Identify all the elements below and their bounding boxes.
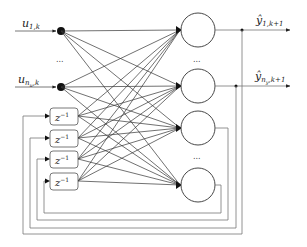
rnn-diagram: u1,k unu,k ... ... ... ŷ1,k+1 ŷny,k+1 z−… [0, 0, 307, 247]
neuron-2 [181, 69, 215, 103]
output-label-1: ŷ1,k+1 [255, 14, 283, 28]
weight-connections [61, 30, 180, 185]
output-label-n: ŷny,k+1 [254, 70, 285, 86]
neurons [181, 13, 215, 202]
neuron-1 [181, 13, 215, 47]
input-label-1: u1,k [22, 17, 40, 31]
neuron-input-arrows [176, 26, 182, 189]
input-label-n: unu,k [18, 73, 39, 88]
input-ellipsis: ... [56, 55, 64, 64]
neuron-ellipsis-top: ... [193, 55, 201, 64]
delay-input-arrows [45, 114, 50, 184]
neuron-3 [181, 111, 215, 145]
neuron-ellipsis-bottom: ... [193, 152, 201, 161]
neuron-4 [181, 168, 215, 202]
